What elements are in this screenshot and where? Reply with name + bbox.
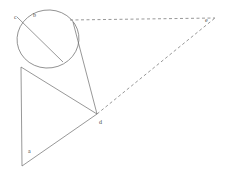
geometry-canvas: [0, 0, 238, 172]
tangent-left-to-d: [21, 67, 97, 114]
vertex-label-c: c: [14, 14, 17, 20]
main-circle: [13, 6, 82, 72]
chord-c-to-circle: [17, 17, 63, 62]
segment-d-to-a: [22, 114, 97, 166]
vertex-label-d: d: [99, 119, 102, 125]
diagonal-dashed-d-to-e: [97, 18, 215, 114]
geometry-diagram: c b e d a: [0, 0, 238, 172]
vertex-label-a: a: [28, 148, 31, 154]
vertex-label-e: e: [205, 17, 208, 23]
horizontal-dashed-to-e: [70, 18, 215, 20]
tangent-top-to-d: [73, 22, 97, 114]
vertex-label-b: b: [33, 12, 36, 18]
vertical-left-edge: [21, 67, 22, 166]
